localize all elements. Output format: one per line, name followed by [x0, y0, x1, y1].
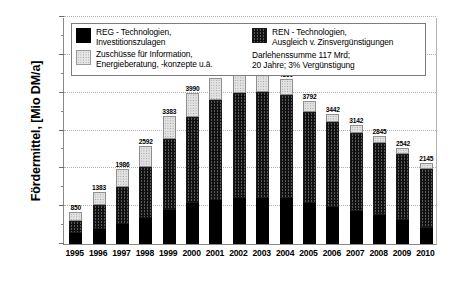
bar-value-label: 850	[70, 204, 80, 211]
legend-label-reg-line2: Investitionszulagen	[96, 37, 165, 47]
bar-value-label: 2145	[419, 155, 433, 162]
bar-segment-zuschuesse	[139, 146, 152, 167]
bar-segment-reg	[373, 215, 386, 244]
bar-segment-reg	[209, 200, 222, 244]
bar-segment-reg	[303, 203, 316, 244]
bar-segment-zuschuesse	[303, 101, 316, 112]
bar-segment-zuschuesse	[93, 192, 106, 205]
bar-segment-zuschuesse	[186, 93, 199, 117]
bar-segment-ren	[350, 133, 363, 211]
bar-stack: 2145	[420, 163, 433, 244]
bar-value-label: 2845	[373, 128, 387, 135]
bar-stack: 3990	[186, 93, 199, 244]
legend-label-ren-line2: Ausgleich v. Zinsvergünstigungen	[272, 37, 393, 47]
bar-segment-zuschuesse	[350, 125, 363, 133]
legend-swatch-reg-icon	[76, 28, 91, 43]
bar-segment-reg	[69, 233, 82, 244]
legend-label-reg: REG - Technologien, Investitionszulagen	[96, 27, 171, 48]
bar-segment-ren	[326, 122, 339, 207]
bar-segment-ren	[163, 139, 176, 210]
bar-stack: 3383	[163, 116, 176, 244]
bar-segment-reg	[396, 220, 409, 244]
x-axis-tick-label: 1996	[89, 248, 107, 258]
bar-segment-reg	[256, 198, 269, 244]
bar-segment-ren	[256, 92, 269, 198]
bar-segment-ren	[303, 112, 316, 204]
bar-segment-reg	[233, 198, 246, 244]
bar-segment-zuschuesse	[280, 79, 293, 94]
bar-value-label: 3442	[326, 106, 340, 113]
legend-item-zuschuesse: Zuschüsse für Information, Energieberatu…	[76, 49, 252, 70]
bar-segment-zuschuesse	[373, 136, 386, 143]
bar-segment-reg	[420, 228, 433, 244]
x-axis-tick-label: 2001	[206, 248, 224, 258]
bar-segment-reg	[139, 218, 152, 244]
bar-value-label: 1383	[92, 184, 106, 191]
x-axis-tick-label: 2008	[369, 248, 387, 258]
bar-stack: 3792	[303, 101, 316, 244]
x-axis-tick-label: 1995	[66, 248, 84, 258]
bar-stack: 2845	[373, 136, 386, 244]
bar-stack: 4385	[209, 78, 222, 244]
x-axis-tick-label: 2004	[276, 248, 294, 258]
bar-stack: 3142	[350, 125, 363, 244]
bar-segment-ren	[116, 187, 129, 225]
x-axis-tick-label: 2005	[299, 248, 317, 258]
legend-swatch-ren-icon	[252, 28, 267, 43]
bar-segment-reg	[350, 211, 363, 244]
x-axis-tick-label: 2009	[393, 248, 411, 258]
y-axis-tick	[59, 16, 64, 17]
legend-column-left: REG - Technologien, Investitionszulagen …	[76, 27, 252, 72]
legend-label-ren: REN - Technologien, Ausgleich v. Zinsver…	[272, 27, 393, 48]
bar-value-label: 2592	[139, 138, 153, 145]
bar-segment-ren	[233, 93, 246, 199]
bar-segment-ren	[420, 169, 433, 228]
bar-stack: 2542	[396, 148, 409, 244]
x-axis-tick-label: 1999	[159, 248, 177, 258]
bar-segment-zuschuesse	[69, 212, 82, 221]
legend-label-zuschuesse: Zuschüsse für Information, Energieberatu…	[96, 49, 213, 70]
bar-value-label: 3142	[349, 117, 363, 124]
legend-note-line1: Darlehenssumme 117 Mrd;	[252, 50, 350, 60]
x-axis-tick-label: 2002	[229, 248, 247, 258]
legend-note-text: Darlehenssumme 117 Mrd; 20 Jahre; 3% Ver…	[252, 50, 355, 71]
x-axis-tick-labels: 1995199619971998199920002001200220032004…	[63, 248, 437, 264]
bar-value-label: 1986	[115, 161, 129, 168]
bar-chart: Fördermittel, [Mio DM/a] 850138319862592…	[0, 0, 454, 282]
bar-segment-reg	[326, 207, 339, 244]
chart-legend: REG - Technologien, Investitionszulagen …	[71, 23, 426, 76]
bar-segment-zuschuesse	[116, 169, 129, 187]
bar-stack: 2592	[139, 146, 152, 244]
bar-segment-reg	[280, 198, 293, 244]
gridline	[64, 16, 436, 17]
bar-segment-ren	[69, 221, 82, 234]
bar-stack: 3442	[326, 114, 339, 244]
x-axis-tick-label: 1997	[112, 248, 130, 258]
legend-note: Darlehenssumme 117 Mrd; 20 Jahre; 3% Ver…	[252, 50, 393, 71]
x-axis-tick-label: 1998	[136, 248, 154, 258]
bar-segment-ren	[373, 143, 386, 215]
bar-segment-reg	[116, 224, 129, 244]
x-axis-tick-label: 2006	[323, 248, 341, 258]
y-axis-title: Fördermittel, [Mio DM/a]	[29, 31, 43, 231]
legend-swatch-zuschuesse-icon	[76, 50, 91, 65]
bar-segment-zuschuesse	[233, 73, 246, 93]
bar-segment-reg	[186, 203, 199, 244]
bar-segment-zuschuesse	[326, 114, 339, 122]
x-axis-tick-label: 2007	[346, 248, 364, 258]
bar-value-label: 3990	[186, 85, 200, 92]
bar-segment-reg	[163, 210, 176, 244]
x-axis-tick-label: 2000	[182, 248, 200, 258]
bar-stack: 4522	[233, 73, 246, 244]
bar-segment-ren	[139, 167, 152, 217]
bar-segment-ren	[186, 117, 199, 203]
bar-value-label: 2542	[396, 140, 410, 147]
legend-label-zuschuesse-line2: Energieberatung, -konzepte u.ä.	[96, 59, 213, 69]
legend-column-right: REN - Technologien, Ausgleich v. Zinsver…	[252, 27, 393, 72]
bar-segment-ren	[209, 100, 222, 200]
legend-label-ren-line1: REN - Technologien,	[272, 27, 347, 37]
bar-stack: 1383	[93, 192, 106, 244]
bar-stack: 4350	[280, 79, 293, 244]
bar-segment-ren	[280, 95, 293, 199]
bar-value-label: 3383	[162, 108, 176, 115]
